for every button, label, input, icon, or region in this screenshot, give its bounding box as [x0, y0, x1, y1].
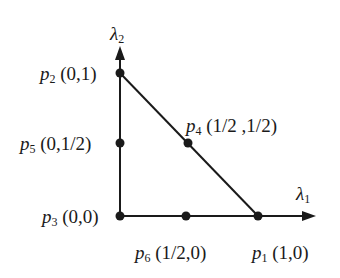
point-sub: 1 [262, 251, 268, 265]
point-sub: 5 [30, 142, 36, 156]
point-coords: (0,1) [60, 63, 96, 84]
label-p2: p2 (0,1) [40, 64, 97, 85]
point-name: p [40, 63, 50, 84]
y-axis-label: λ2 [110, 24, 124, 45]
node-p4 [184, 139, 193, 148]
point-name: p [186, 115, 196, 136]
node-p6 [182, 212, 191, 221]
label-p3: p3 (0,0) [42, 207, 99, 228]
x-axis-label: λ1 [296, 184, 310, 205]
node-p2 [116, 69, 125, 78]
x-axis-arrow-icon [302, 211, 316, 221]
point-sub: 3 [52, 215, 58, 229]
y-axis-symbol: λ [110, 23, 118, 44]
node-p5 [116, 139, 125, 148]
point-name: p [42, 206, 52, 227]
y-axis-subscript: 2 [118, 32, 124, 46]
point-sub: 2 [50, 72, 56, 86]
point-sub: 4 [196, 124, 202, 138]
node-p1 [254, 212, 263, 221]
point-coords: (0,0) [62, 206, 98, 227]
point-coords: (0,1/2) [40, 133, 91, 154]
label-p4: p4 (1/2 ,1/2) [186, 116, 277, 137]
x-axis-symbol: λ [296, 183, 304, 204]
label-p5: p5 (0,1/2) [20, 134, 91, 155]
x-axis-subscript: 1 [304, 192, 310, 206]
point-coords: (1,0) [272, 242, 308, 263]
point-name: p [135, 242, 145, 263]
label-p1: p1 (1,0) [252, 243, 309, 264]
y-axis-arrow-icon [115, 46, 125, 60]
point-coords: (1/2,0) [155, 242, 206, 263]
node-p3 [116, 212, 125, 221]
label-p6: p6 (1/2,0) [135, 243, 206, 264]
point-name: p [252, 242, 262, 263]
point-coords: (1/2 ,1/2) [206, 115, 277, 136]
point-sub: 6 [145, 251, 151, 265]
point-name: p [20, 133, 30, 154]
